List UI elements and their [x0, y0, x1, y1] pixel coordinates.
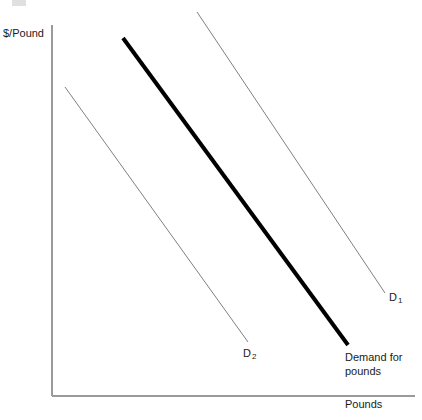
demand-curve-d1	[197, 12, 385, 293]
curve-label-d1-base: D	[389, 291, 397, 303]
demand-label-line-2: pounds	[345, 364, 402, 378]
curve-label-d2: D2	[243, 347, 256, 361]
demand-label-line-1: Demand for	[345, 350, 402, 364]
curve-label-demand-for-pounds: Demand for pounds	[345, 350, 402, 378]
curve-label-d2-subscript: 2	[251, 352, 256, 361]
curve-label-d1-subscript: 1	[397, 296, 402, 305]
demand-curve-d2	[65, 87, 248, 342]
y-axis-title: $/Pound	[3, 27, 44, 40]
demand-curve-pounds-bold	[123, 38, 348, 345]
x-axis-title: Pounds	[345, 398, 382, 411]
curve-label-d1: D1	[389, 291, 402, 305]
curve-label-d2-base: D	[243, 347, 251, 359]
demand-curve-chart: $/Pound Pounds D1 D2 Demand for pounds	[0, 0, 422, 420]
